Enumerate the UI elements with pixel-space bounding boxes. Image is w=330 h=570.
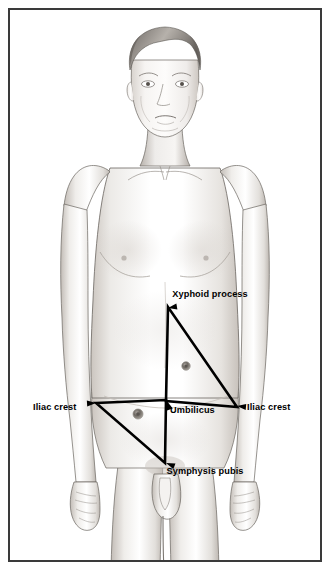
right-pectoral-shade [168,220,236,280]
marker-lower [133,409,143,419]
anatomical-figure-svg: Xyphoid processIliac crestUmbilicusIliac… [0,0,330,570]
left-pupil [146,82,150,86]
label-symphysis-pubis: Symphysis pubis [166,466,243,476]
label-iliac-crest-right: Iliac crest [247,402,291,412]
left-pectoral-shade [94,220,162,280]
label-xyphoid-process: Xyphoid process [172,289,248,299]
left-nipple [121,255,126,260]
right-pupil [180,82,184,86]
label-iliac-crest-left: Iliac crest [33,402,77,412]
label-umbilicus: Umbilicus [170,405,215,415]
illustration-canvas: Xyphoid processIliac crestUmbilicusIliac… [0,0,330,570]
marker-upper [182,362,190,370]
right-nipple [203,255,208,260]
